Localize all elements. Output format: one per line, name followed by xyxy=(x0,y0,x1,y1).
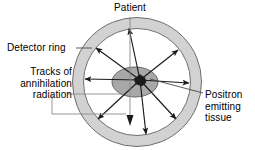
label-tracks-line-1: Tracks of xyxy=(6,66,72,78)
label-detector-ring: Detector ring xyxy=(7,42,66,54)
label-positron-line-1: Positron xyxy=(205,89,243,101)
label-patient: Patient xyxy=(104,2,156,14)
label-detector-ring-text: Detector ring xyxy=(7,42,66,53)
label-tracks-line-3: radiation xyxy=(6,89,72,101)
label-positron-line-2: emitting xyxy=(205,101,243,113)
label-tracks-line-2: annihilation xyxy=(6,78,72,90)
label-positron-line-3: tissue xyxy=(205,112,243,124)
label-positron-emitting-tissue: Positron emitting tissue xyxy=(205,89,243,124)
label-patient-text: Patient xyxy=(114,2,146,13)
label-tracks-of-annihilation-radiation: Tracks of annihilation radiation xyxy=(6,66,72,101)
pet-diagram-figure: Patient Detector ring Tracks of annihila… xyxy=(0,0,255,150)
